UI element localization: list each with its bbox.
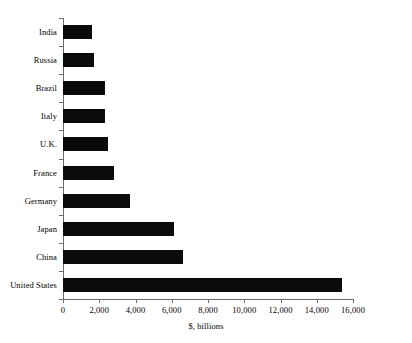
bar-united-states: [63, 278, 342, 292]
x-axis-tick-label: 0: [61, 305, 65, 316]
bar-u-k-: [63, 137, 108, 151]
x-axis-tick-label: 16,000: [341, 305, 365, 316]
x-axis-tick: [353, 299, 354, 303]
bar-japan: [63, 222, 174, 236]
y-axis-label-germany: Germany: [0, 196, 57, 206]
y-axis-tick: [59, 130, 63, 131]
y-axis-tick: [59, 102, 63, 103]
x-axis-tick: [317, 299, 318, 303]
x-axis-tick: [136, 299, 137, 303]
y-axis-category-labels: IndiaRussiaBrazilItalyU.K.FranceGermanyJ…: [0, 18, 57, 299]
y-axis-tick: [59, 74, 63, 75]
x-axis-tick-label: 14,000: [305, 305, 329, 316]
x-axis-tick: [99, 299, 100, 303]
x-axis-tick: [244, 299, 245, 303]
bar-series: [63, 18, 353, 299]
y-axis-label-united-states: United States: [0, 280, 57, 290]
bar-india: [63, 25, 92, 39]
x-axis-tick-label: 4,000: [126, 305, 146, 316]
bar-italy: [63, 109, 105, 123]
bar-russia: [63, 53, 94, 67]
y-axis-label-india: India: [0, 27, 57, 37]
y-axis-tick: [59, 187, 63, 188]
x-axis-tick-label: 6,000: [162, 305, 182, 316]
x-axis-tick-label: 8,000: [198, 305, 218, 316]
bar-germany: [63, 194, 130, 208]
x-axis-tick-label: 12,000: [269, 305, 293, 316]
y-axis-label-italy: Italy: [0, 111, 57, 121]
bar-china: [63, 250, 183, 264]
plot-area: [63, 18, 353, 299]
x-axis-tick: [281, 299, 282, 303]
x-axis-tick-label: 10,000: [232, 305, 256, 316]
bar-chart: IndiaRussiaBrazilItalyU.K.FranceGermanyJ…: [0, 0, 412, 343]
y-axis-label-china: China: [0, 252, 57, 262]
y-axis-label-france: France: [0, 168, 57, 178]
bar-france: [63, 166, 114, 180]
y-axis-tick: [59, 215, 63, 216]
x-axis-tick: [63, 299, 64, 303]
x-axis-title: $, billions: [0, 321, 412, 332]
y-axis-label-russia: Russia: [0, 55, 57, 65]
x-axis-tick: [208, 299, 209, 303]
y-axis-tick: [59, 18, 63, 19]
y-axis-tick: [59, 46, 63, 47]
bar-brazil: [63, 81, 105, 95]
y-axis-label-u-k-: U.K.: [0, 139, 57, 149]
y-axis-tick: [59, 271, 63, 272]
y-axis-label-brazil: Brazil: [0, 83, 57, 93]
x-axis-tick: [172, 299, 173, 303]
x-axis-tick-label: 2,000: [89, 305, 109, 316]
y-axis-tick: [59, 159, 63, 160]
y-axis-tick: [59, 243, 63, 244]
y-axis-label-japan: Japan: [0, 224, 57, 234]
